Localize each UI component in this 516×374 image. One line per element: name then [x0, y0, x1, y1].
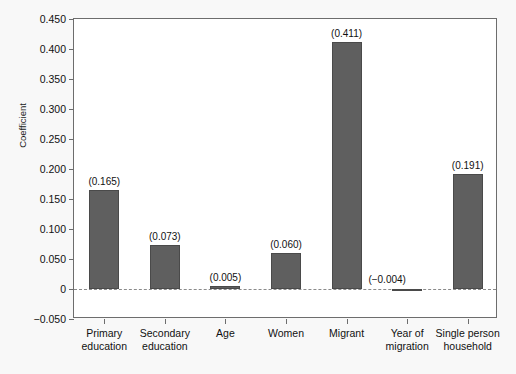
- y-axis-tick: [69, 229, 74, 230]
- bar: [150, 245, 180, 289]
- bar-value-label: (0.073): [149, 231, 181, 242]
- x-axis-tick: [165, 319, 166, 324]
- y-axis-tick-label: 0.300: [16, 103, 66, 115]
- y-axis-tick-label: 0.350: [16, 73, 66, 85]
- y-axis-tick-label: 0.100: [16, 223, 66, 235]
- plot-area: (0.165)(0.073)(0.005)(0.060)(0.411)(−0.0…: [74, 19, 496, 317]
- x-axis-tick: [468, 319, 469, 324]
- y-axis-tick-label: 0.450: [16, 13, 66, 25]
- bar: [89, 190, 119, 289]
- y-axis-tick: [69, 259, 74, 260]
- y-axis-tick: [69, 109, 74, 110]
- y-axis-tick-label: 0.200: [16, 163, 66, 175]
- x-axis-tick: [286, 319, 287, 324]
- y-axis-tick-label: 0.400: [16, 43, 66, 55]
- bar: [271, 253, 301, 289]
- y-axis-tick-label: −0.050: [16, 313, 66, 325]
- y-axis-tick: [69, 289, 74, 290]
- y-axis-tick: [69, 169, 74, 170]
- y-axis-tick: [69, 19, 74, 20]
- bar: [210, 286, 240, 289]
- chart-figure: Coefficient (0.165)(0.073)(0.005)(0.060)…: [0, 0, 516, 374]
- y-axis-tick-label: 0.050: [16, 253, 66, 265]
- bar-value-label: (0.165): [88, 176, 120, 187]
- y-axis-tick: [69, 139, 74, 140]
- y-axis-tick: [69, 49, 74, 50]
- caption-fragment: [6, 0, 206, 7]
- x-axis-tick-label: Single person household: [431, 327, 505, 352]
- zero-reference-line: [74, 289, 496, 290]
- y-axis-tick-label: 0.250: [16, 133, 66, 145]
- bar-value-label: (0.060): [270, 239, 302, 250]
- y-axis-tick-label: 0.150: [16, 193, 66, 205]
- y-axis-tick: [69, 319, 74, 320]
- y-axis-tick: [69, 79, 74, 80]
- y-axis-tick: [69, 199, 74, 200]
- y-axis-tick-label: 0: [16, 283, 66, 295]
- bar: [392, 289, 422, 291]
- plot-frame: (0.165)(0.073)(0.005)(0.060)(0.411)(−0.0…: [73, 18, 497, 318]
- x-axis-tick: [225, 319, 226, 324]
- x-axis-tick: [347, 319, 348, 324]
- bar-value-label: (0.411): [331, 28, 362, 39]
- x-axis-tick: [104, 319, 105, 324]
- bar-value-label: (0.191): [452, 160, 484, 171]
- bar: [453, 174, 483, 289]
- bar-value-label: (−0.004): [368, 274, 406, 285]
- bar-value-label: (0.005): [210, 272, 242, 283]
- x-axis-tick: [407, 319, 408, 324]
- bar: [332, 42, 362, 289]
